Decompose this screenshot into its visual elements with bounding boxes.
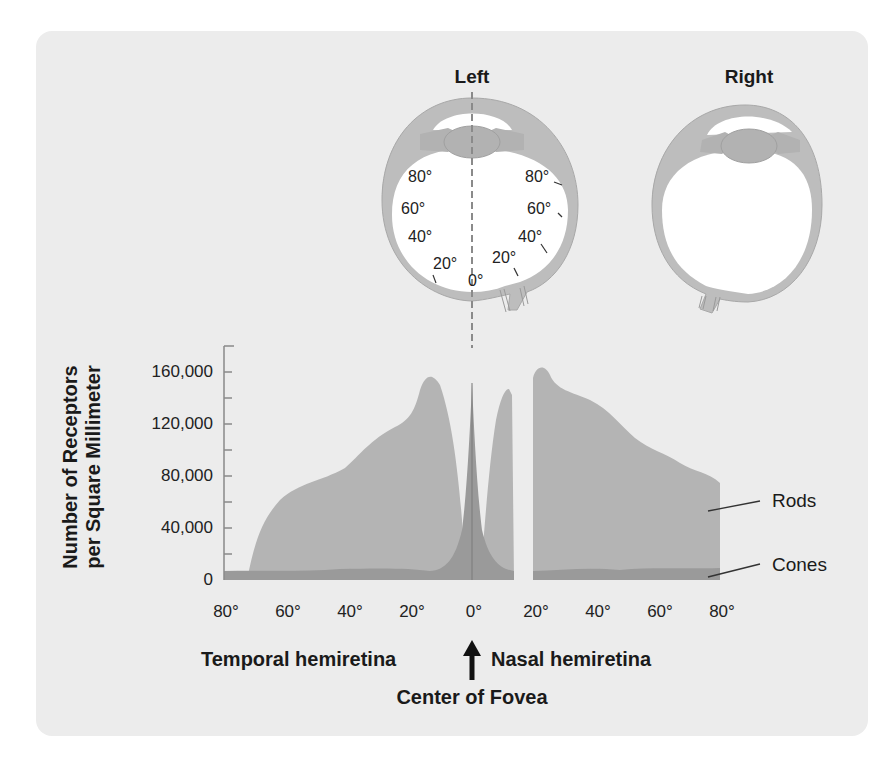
x-tick-nasal-20: 20° [523,602,549,622]
rods-area-temporal [224,377,467,580]
x-tick-temporal-20: 20° [399,602,425,622]
x-tick-nasal-60: 60° [647,602,673,622]
eye-angle-nasal-40: 40° [518,228,542,246]
right-eye-diagram [652,105,822,313]
x-tick-temporal-80: 80° [213,602,239,622]
right-eye-title: Right [725,66,774,88]
y-tick-80000: 80,000 [161,466,213,486]
eye-angle-nasal-80: 80° [525,168,549,186]
eye-angle-nasal-20: 20° [492,249,516,267]
y-tick-0: 0 [204,570,213,590]
legend-rods: Rods [772,490,816,512]
eye-angle-nasal-60: 60° [527,200,551,218]
x-tick-nasal-40: 40° [585,602,611,622]
x-tick-nasal-80: 80° [709,602,735,622]
left-eye-diagram [382,92,578,348]
legend-cones: Cones [772,554,827,576]
y-tick-120000: 120,000 [152,414,213,434]
y-axis-title-line1: Number of Receptors [59,365,82,568]
receptor-density-chart [224,346,760,680]
y-axis-title: Number of Receptors per Square Millimete… [59,365,105,568]
y-axis-title-line2: per Square Millimeter [82,365,105,568]
temporal-hemiretina-label: Temporal hemiretina [201,648,396,671]
x-tick-0: 0° [466,602,482,622]
y-tick-160000: 160,000 [152,362,213,382]
x-tick-temporal-60: 60° [275,602,301,622]
fovea-center-label: Center of Fovea [396,686,547,709]
rods-area-nasal-2 [533,367,720,580]
x-tick-temporal-40: 40° [337,602,363,622]
cones-area-nasal [533,568,720,580]
nasal-hemiretina-label: Nasal hemiretina [491,648,651,671]
figure-graphics [0,0,893,757]
eye-angle-temporal-60: 60° [401,200,425,218]
eye-angle-temporal-40: 40° [408,228,432,246]
eye-angle-center-0: 0° [468,272,483,290]
eye-angle-temporal-80: 80° [408,168,432,186]
eye-angle-temporal-20: 20° [433,255,457,273]
y-tick-40000: 40,000 [161,518,213,538]
left-eye-title: Left [455,66,490,88]
